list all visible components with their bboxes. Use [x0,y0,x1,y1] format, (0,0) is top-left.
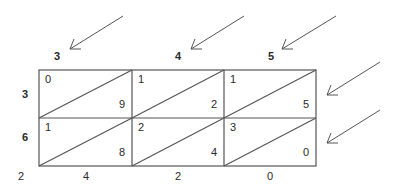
cell-tens-digit: 2 [138,121,144,133]
arrow-icon [191,16,244,49]
cell-diagonal [132,70,224,118]
lattice-row-2: 1 8 2 4 3 0 [45,121,309,158]
multiplicand-digit: 3 [54,50,60,62]
cell-tens-digit: 1 [230,73,236,85]
lattice-row-1: 0 9 1 2 1 5 [45,73,309,110]
cell-ones-digit: 5 [303,98,309,110]
right-arrows [327,62,380,143]
cell-diagonal [132,118,224,166]
lattice-grid [39,70,316,166]
multiplicand-digit: 5 [268,50,274,62]
result-digit: 2 [175,170,181,182]
multiplicand-labels: 3 4 5 [54,50,274,62]
result-digit: 0 [267,170,273,182]
cell-ones-digit: 8 [119,146,125,158]
lattice-multiplication-diagram: 3 4 5 3 6 0 9 1 2 1 5 1 8 2 4 3 0 2 4 2 … [0,0,398,189]
multiplier-digit: 3 [22,88,28,100]
cell-ones-digit: 2 [211,98,217,110]
cell-ones-digit: 4 [211,146,217,158]
multiplier-digit: 6 [22,131,28,143]
cell-diagonal [39,118,132,166]
cell-tens-digit: 0 [45,73,51,85]
result-digit: 2 [18,170,24,182]
arrow-icon [327,62,380,95]
cell-tens-digit: 1 [45,121,51,133]
top-arrows [70,16,336,49]
result-digit: 4 [83,170,89,182]
cell-diagonal [39,70,132,118]
multiplicand-digit: 4 [175,50,182,62]
result-digits: 2 4 2 0 [18,170,273,182]
cell-diagonal [224,70,316,118]
arrow-icon [70,16,123,49]
cell-ones-digit: 9 [119,98,125,110]
cell-diagonal [224,118,316,166]
arrow-icon [282,16,336,49]
cell-ones-digit: 0 [303,146,309,158]
multiplier-labels: 3 6 [22,88,28,143]
arrow-icon [327,110,380,143]
cell-tens-digit: 3 [230,121,236,133]
cell-tens-digit: 1 [138,73,144,85]
